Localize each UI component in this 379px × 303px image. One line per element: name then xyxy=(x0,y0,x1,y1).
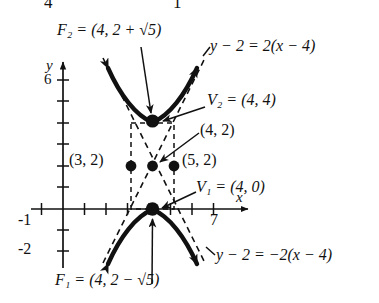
point-rect-right xyxy=(169,161,180,172)
y-tick-label-minus2: -2 xyxy=(18,241,31,257)
leader-asymptote-positive xyxy=(203,47,210,56)
focus-upper-label: F₂ = (4, 2 + √5) xyxy=(57,22,161,38)
vertex-upper-label: V₂ = (4, 4) xyxy=(207,92,276,108)
vertex-lower-label: V₁ = (4, 0) xyxy=(196,179,265,195)
point-rect-left xyxy=(126,161,137,172)
x-tick-label-7: 7 xyxy=(210,212,218,228)
clipped-text-top-left: 4 xyxy=(44,0,53,11)
point-center xyxy=(147,161,158,172)
leader-vertex-lower xyxy=(162,192,196,208)
rect-right-point-label: (5, 2) xyxy=(182,152,217,168)
point-vertex-lower xyxy=(146,202,160,216)
x-tick-label-minus1: -1 xyxy=(18,212,31,228)
focus-lower-label: F₁ = (4, 2 − √5) xyxy=(55,272,159,288)
point-vertex-upper xyxy=(146,114,159,127)
x-axis-title: x xyxy=(236,190,243,205)
y-tick-label-6: 6 xyxy=(44,72,52,87)
rect-left-point-label: (3, 2) xyxy=(69,152,104,168)
center-point-label: (4, 2) xyxy=(200,122,235,138)
clipped-text-top-right: 1 xyxy=(173,0,182,11)
leader-asymptote-negative xyxy=(206,247,215,255)
leader-focus-upper xyxy=(141,47,151,113)
asymptote-positive-label: y − 2 = 2(x − 4) xyxy=(210,38,315,54)
plotted-points xyxy=(126,114,180,215)
asymptote-negative-label: y − 2 = −2(x − 4) xyxy=(216,247,332,263)
